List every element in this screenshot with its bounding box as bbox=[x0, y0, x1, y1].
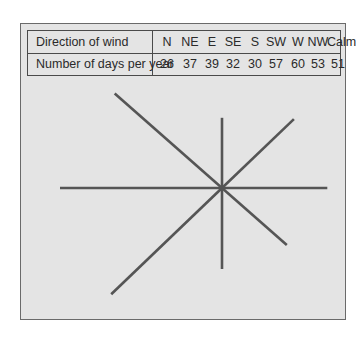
wind-line-sw bbox=[111, 188, 222, 294]
wind-rose-diagram bbox=[0, 0, 361, 342]
wind-line-ne bbox=[222, 119, 294, 188]
wind-line-se bbox=[222, 188, 287, 245]
wind-line-nw bbox=[115, 94, 222, 188]
